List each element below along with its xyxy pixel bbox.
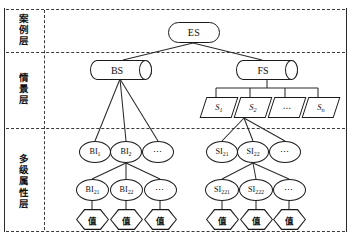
node-es-label: ES bbox=[188, 27, 200, 38]
node-si-221-label: SI221 bbox=[214, 185, 230, 195]
node-bi-22-label: BI22 bbox=[119, 185, 133, 195]
node-si-222[interactable]: SI222 bbox=[239, 179, 273, 201]
node-scenario-2[interactable]: S2 bbox=[237, 97, 269, 118]
node-value-left-3-label: 值 bbox=[156, 214, 165, 226]
ellipsis-icon: ⋯ bbox=[153, 147, 163, 157]
node-si-222-label: SI222 bbox=[248, 185, 264, 195]
node-si-21-label: SI21 bbox=[215, 147, 228, 157]
node-value-right-3[interactable]: 值 bbox=[273, 209, 306, 230]
node-si-22-label: SI22 bbox=[246, 147, 259, 157]
node-fs-label: FS bbox=[257, 65, 276, 76]
node-scenario-1-label: S1 bbox=[215, 102, 222, 113]
node-value-right-3-label: 值 bbox=[285, 214, 294, 226]
node-value-left-3[interactable]: 值 bbox=[144, 209, 177, 230]
node-es[interactable]: ES bbox=[168, 22, 220, 43]
node-si-level2-ellipsis: ⋯ bbox=[273, 179, 306, 201]
node-bi-level2-ellipsis: ⋯ bbox=[144, 179, 177, 201]
node-scenario-1[interactable]: S1 bbox=[203, 97, 235, 118]
node-scenario-n-label: Sn bbox=[317, 102, 324, 113]
diagram-canvas: 案例层 情景层 多级属性层 bbox=[0, 0, 351, 238]
node-value-left-2-label: 值 bbox=[122, 214, 131, 226]
node-scenario-2-label: S2 bbox=[249, 102, 256, 113]
ellipsis-icon: ⋯ bbox=[282, 103, 292, 113]
node-bi-21[interactable]: BI21 bbox=[76, 179, 109, 201]
node-bi-ellipsis: ⋯ bbox=[142, 141, 174, 163]
node-si-221[interactable]: SI221 bbox=[205, 179, 239, 201]
node-bi-22[interactable]: BI22 bbox=[110, 179, 143, 201]
node-bi-2[interactable]: BI2 bbox=[110, 141, 142, 163]
node-bs[interactable]: BS bbox=[90, 60, 152, 80]
node-value-right-2-label: 值 bbox=[252, 214, 261, 226]
node-bi-2-label: BI2 bbox=[120, 147, 131, 157]
node-value-right-1[interactable]: 值 bbox=[206, 209, 239, 230]
node-value-left-1[interactable]: 值 bbox=[76, 209, 109, 230]
node-si-21[interactable]: SI21 bbox=[206, 141, 238, 163]
node-scenario-n[interactable]: Sn bbox=[305, 97, 337, 118]
node-bi-1[interactable]: BI1 bbox=[79, 141, 111, 163]
node-value-left-2[interactable]: 值 bbox=[110, 209, 143, 230]
ellipsis-icon: ⋯ bbox=[155, 185, 165, 195]
node-si-22[interactable]: SI22 bbox=[237, 141, 269, 163]
node-bi-21-label: BI21 bbox=[85, 185, 99, 195]
node-value-right-1-label: 值 bbox=[218, 214, 227, 226]
node-scenario-ellipsis: ⋯ bbox=[271, 97, 303, 118]
ellipsis-icon: ⋯ bbox=[280, 147, 290, 157]
node-bs-label: BS bbox=[111, 65, 131, 76]
ellipsis-icon: ⋯ bbox=[284, 185, 294, 195]
node-value-right-2[interactable]: 值 bbox=[240, 209, 273, 230]
node-bi-1-label: BI1 bbox=[89, 147, 100, 157]
node-value-left-1-label: 值 bbox=[88, 214, 97, 226]
node-fs[interactable]: FS bbox=[236, 60, 298, 80]
node-si-ellipsis: ⋯ bbox=[269, 141, 301, 163]
